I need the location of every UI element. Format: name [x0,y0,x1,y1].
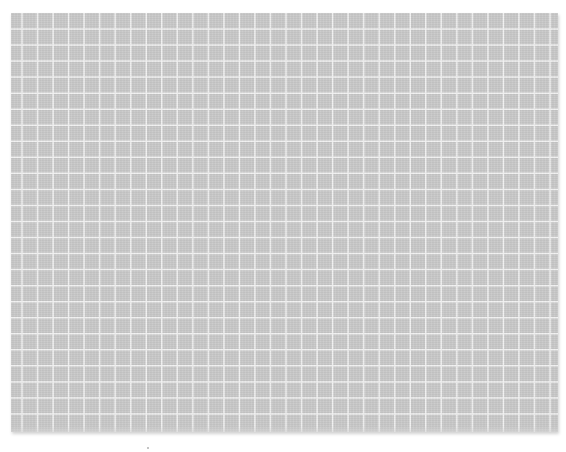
bottom-edge-shading [11,426,558,432]
canvas [0,0,566,452]
grid-lines [11,13,558,432]
grid-panel [11,13,558,432]
noise-speck [147,447,149,449]
